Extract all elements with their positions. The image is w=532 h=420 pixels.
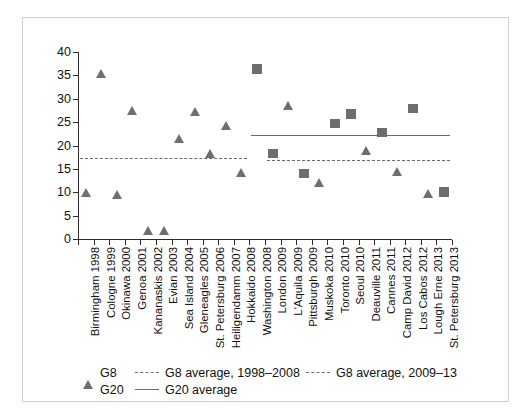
x-tick <box>156 240 157 245</box>
x-tick <box>265 240 266 245</box>
y-tick <box>73 122 78 123</box>
x-tick <box>140 240 141 245</box>
data-point-g20 <box>268 149 278 159</box>
x-tick-label: Okinawa 2000 <box>121 247 132 320</box>
legend-row-2: G20 G20 average <box>81 382 501 397</box>
data-point-g8 <box>236 168 246 177</box>
data-point-g20 <box>377 128 387 138</box>
x-tick <box>436 240 437 245</box>
x-tick-label: Sea Island 2004 <box>184 247 195 329</box>
x-tick <box>390 240 391 245</box>
y-tick <box>73 169 78 170</box>
x-tick-label: Birmingham 1998 <box>90 247 101 336</box>
reference-line-g8-average <box>80 158 247 159</box>
data-point-g8 <box>361 146 371 155</box>
x-tick-label: St. Petersburg 2006 <box>215 247 226 348</box>
legend-item-g8-avg-2009-13: G8 average, 2009–13 <box>306 365 457 380</box>
x-tick-label: Heiligendamm 2007 <box>231 247 242 348</box>
x-tick <box>234 240 235 245</box>
y-tick-label: 20 <box>45 140 71 152</box>
legend-item-g20-avg: G20 average <box>135 382 237 397</box>
data-point-g8 <box>143 226 153 235</box>
data-point-g20 <box>346 109 356 119</box>
legend-label-g20-avg: G20 average <box>165 383 237 397</box>
x-tick <box>281 240 282 245</box>
x-tick-label: Genoa 2001 <box>137 247 148 310</box>
y-tick-label: 10 <box>45 186 71 198</box>
x-tick <box>125 240 126 245</box>
data-point-g8 <box>205 149 215 158</box>
reference-line-g20-average <box>251 135 450 136</box>
y-tick-label: 40 <box>45 46 71 58</box>
data-point-g8 <box>112 190 122 199</box>
dashed-line-icon <box>135 372 159 373</box>
legend-label-g8-avg-2009-13: G8 average, 2009–13 <box>336 366 457 380</box>
y-tick-label: 35 <box>45 69 71 81</box>
x-tick-label: Pittsburgh 2009 <box>308 247 319 327</box>
dashed-line-icon <box>306 372 330 373</box>
data-point-g8 <box>96 69 106 78</box>
x-tick-label: Cologne 1999 <box>106 247 117 318</box>
data-point-g8 <box>159 226 169 235</box>
x-tick-label: Camp David 2012 <box>402 247 413 338</box>
x-tick-label: Kananaskis 2002 <box>153 247 164 334</box>
x-tick-label: Seoul 2010 <box>355 247 366 305</box>
x-tick <box>374 240 375 245</box>
x-tick <box>421 240 422 245</box>
x-tick <box>296 240 297 245</box>
legend-item-g8: G8 <box>81 365 117 380</box>
y-tick <box>73 99 78 100</box>
y-tick-label: 5 <box>45 210 71 222</box>
y-tick-label: 0 <box>45 233 71 245</box>
x-tick <box>359 240 360 245</box>
x-tick <box>94 240 95 245</box>
data-point-g8 <box>314 178 324 187</box>
x-tick <box>405 240 406 245</box>
x-tick-label: Muskoka 2010 <box>324 247 335 321</box>
x-tick-label: Hokkaido 2008 <box>246 247 257 323</box>
data-point-g8 <box>81 188 91 197</box>
x-tick-label: Deauville 2011 <box>371 247 382 322</box>
data-point-g8 <box>392 167 402 176</box>
y-tick <box>73 75 78 76</box>
data-point-g20 <box>439 187 449 197</box>
x-tick-label: St. Petersburg 2013 <box>449 247 460 348</box>
y-axis-labels: 0510152025303540 <box>41 18 71 278</box>
x-tick <box>109 240 110 245</box>
x-tick-label: Washington 2008 <box>262 247 273 335</box>
legend-label-g8: G8 <box>100 366 117 380</box>
x-tick <box>343 240 344 245</box>
y-tick <box>73 192 78 193</box>
data-point-g20 <box>408 104 418 114</box>
x-tick-label: Gleneagles 2005 <box>199 247 210 333</box>
x-tick <box>452 240 453 245</box>
data-point-g8 <box>283 101 293 110</box>
chart-legend: G8 G8 average, 1998–2008 G8 average, 200… <box>81 365 501 399</box>
chart-figure: 0510152025303540 Birmingham 1998Cologne … <box>22 17 509 402</box>
x-tick <box>327 240 328 245</box>
x-tick-label: L'Aquila 2009 <box>293 247 304 316</box>
data-point-g8 <box>423 189 433 198</box>
x-tick-label: Toronto 2010 <box>340 247 351 314</box>
x-tick-label: Los Cabos 2012 <box>418 247 429 330</box>
data-point-g8 <box>190 107 200 116</box>
x-tick <box>203 240 204 245</box>
reference-line-g8-average <box>267 160 450 161</box>
legend-label-g20: G20 <box>100 383 124 397</box>
x-tick <box>172 240 173 245</box>
data-point-g20 <box>252 64 262 74</box>
y-tick <box>73 52 78 53</box>
legend-item-g8-avg-1998-2008: G8 average, 1998–2008 <box>135 365 300 380</box>
data-point-g20 <box>330 119 340 129</box>
x-tick <box>312 240 313 245</box>
x-tick-label: Lough Erne 2013 <box>433 247 444 334</box>
x-tick-label: Cannes 2011 <box>386 247 397 314</box>
data-point-g20 <box>299 169 309 179</box>
legend-row-1: G8 G8 average, 1998–2008 G8 average, 200… <box>81 365 501 380</box>
x-tick <box>218 240 219 245</box>
triangle-marker-icon <box>81 366 94 380</box>
x-tick <box>249 240 250 245</box>
data-point-g8 <box>221 121 231 130</box>
legend-item-g20: G20 <box>81 382 124 397</box>
solid-line-icon <box>135 389 159 390</box>
